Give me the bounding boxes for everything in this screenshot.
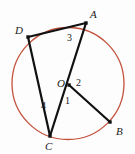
vertex-label-C: C [45, 141, 52, 152]
segment-DA [28, 23, 86, 37]
angle-label-3: 3 [67, 33, 72, 43]
angle-label-2: 2 [76, 78, 81, 88]
vertex-dot-O [67, 83, 70, 86]
segment-OB [69, 85, 110, 122]
segment-DC [28, 37, 50, 136]
geometry-figure: A D O B C 3 2 1 4 [0, 0, 135, 154]
vertex-dot-C [48, 134, 51, 137]
vertex-dot-B [108, 120, 111, 123]
vertex-label-A: A [90, 9, 97, 20]
vertex-dot-D [26, 35, 29, 38]
vertex-label-D: D [15, 25, 23, 36]
vertex-label-B: B [116, 126, 123, 137]
vertex-dot-A [84, 21, 87, 24]
angle-label-4: 4 [41, 101, 46, 111]
angle-label-1: 1 [65, 96, 70, 106]
vertex-label-O: O [57, 78, 65, 89]
